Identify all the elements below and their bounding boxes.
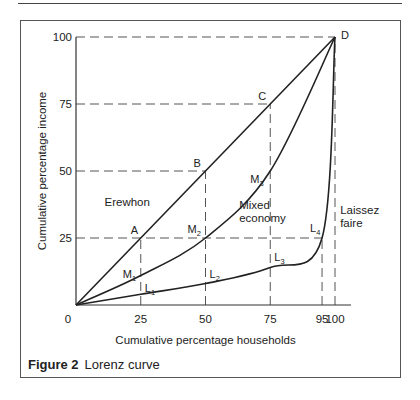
x-tick-label: 25 bbox=[134, 313, 147, 325]
y-tick-label: 75 bbox=[59, 98, 72, 110]
annotation-mixed: Mixed bbox=[239, 199, 270, 211]
point-label-c: C bbox=[258, 90, 266, 102]
annotation-laissez: Laissez bbox=[340, 204, 379, 216]
x-tick-label: 50 bbox=[199, 313, 212, 325]
y-axis-label: Cumulative percentage income bbox=[36, 92, 48, 251]
point-label-l2: L2 bbox=[210, 268, 220, 283]
caption-text: Lorenz curve bbox=[85, 357, 160, 372]
annotation-erewhon: Erewhon bbox=[104, 196, 149, 208]
y-tick-label: 100 bbox=[53, 31, 72, 43]
point-label-l4: L4 bbox=[310, 222, 320, 237]
x-tick-label: 100 bbox=[325, 313, 344, 325]
point-label-l1: L1 bbox=[145, 282, 155, 297]
axes bbox=[76, 37, 351, 305]
point-label-a: A bbox=[131, 224, 139, 236]
point-label-b: B bbox=[194, 157, 201, 169]
point-label-l3: L3 bbox=[274, 251, 284, 266]
point-label-m3: M3 bbox=[250, 173, 263, 188]
point-label-m2: M2 bbox=[188, 223, 201, 238]
y-tick-label: 50 bbox=[59, 165, 72, 177]
point-label-d: D bbox=[341, 29, 349, 41]
annotation-faire: faire bbox=[340, 217, 362, 229]
lorenz-chart: 025507595100255075100 ABCDM1M2M3L1L2L3L4… bbox=[0, 0, 420, 400]
point-labels: ABCDM1M2M3L1L2L3L4 bbox=[123, 29, 349, 297]
figure-caption: Figure 2Lorenz curve bbox=[28, 357, 160, 372]
y-tick-label: 25 bbox=[59, 232, 72, 244]
x-axis-label: Cumulative percentage households bbox=[115, 334, 296, 346]
annotation-economy: economy bbox=[239, 212, 286, 224]
caption-label: Figure 2 bbox=[28, 357, 79, 372]
annotations: ErewhonMixedeconomyLaissezfaire bbox=[104, 196, 379, 229]
series-lines bbox=[76, 37, 335, 305]
x-tick-label: 0 bbox=[65, 313, 71, 325]
x-tick-label: 75 bbox=[264, 313, 277, 325]
